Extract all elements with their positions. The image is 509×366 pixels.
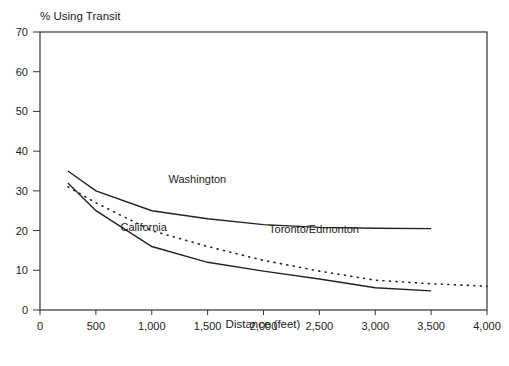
x-tick-label: 500 — [87, 320, 105, 332]
series-labels: WashingtonCaliforniaToronto/Edmonton — [120, 173, 359, 235]
x-tick-label: 0 — [37, 320, 43, 332]
y-tick-label: 0 — [22, 304, 28, 316]
y-axis-ticks: 010203040506070 — [16, 26, 40, 316]
plot-frame — [40, 32, 487, 310]
y-tick-label: 20 — [16, 225, 28, 237]
series-label: California — [120, 221, 167, 233]
line-chart: % Using Transit 010203040506070 05001,00… — [0, 0, 509, 366]
x-axis-title: Distance (feet) — [226, 318, 301, 330]
series-california — [68, 183, 431, 291]
x-tick-label: 1,500 — [194, 320, 222, 332]
y-tick-label: 60 — [16, 66, 28, 78]
axes — [40, 32, 487, 310]
y-tick-label: 10 — [16, 264, 28, 276]
x-tick-label: 1,000 — [138, 320, 166, 332]
y-tick-label: 40 — [16, 145, 28, 157]
x-tick-label: 4,000 — [473, 320, 501, 332]
y-tick-label: 70 — [16, 26, 28, 38]
series-label: Washington — [169, 173, 227, 185]
x-tick-label: 3,500 — [417, 320, 445, 332]
y-tick-label: 50 — [16, 105, 28, 117]
y-axis-title: % Using Transit — [40, 10, 121, 22]
series-label: Toronto/Edmonton — [269, 223, 359, 235]
x-tick-label: 3,000 — [361, 320, 389, 332]
x-tick-label: 2,500 — [306, 320, 334, 332]
y-tick-label: 30 — [16, 185, 28, 197]
series-toronto-edmonton — [68, 187, 487, 286]
